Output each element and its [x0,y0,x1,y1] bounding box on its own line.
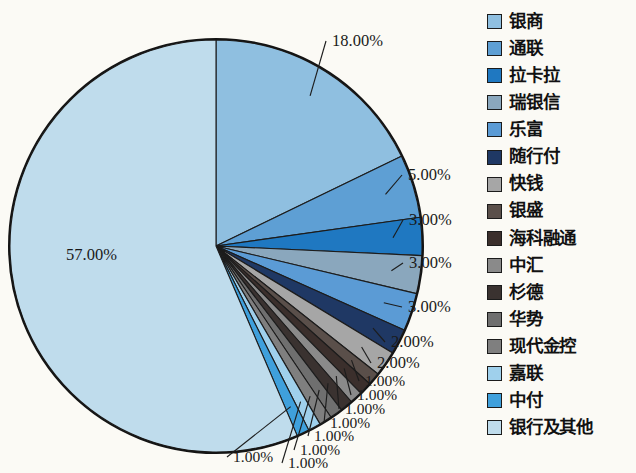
legend-item-label: 现代金控 [509,338,576,356]
legend-color-swatch [487,231,502,246]
slice-percent-label: 57.00% [66,245,117,264]
legend-color-swatch [487,150,502,165]
legend-item-label: 海科融通 [509,230,576,248]
legend-color-swatch [487,312,502,327]
legend-color-swatch [487,366,502,381]
legend-color-swatch [487,420,502,435]
slice-percent-label: 1.00% [288,454,328,471]
legend-color-swatch [487,68,502,83]
legend-item[interactable]: 杉德 [487,279,636,306]
slice-percent-label: 5.00% [408,165,451,184]
pie-chart-figure: 18.00%5.00%3.00%3.00%3.00%2.00%2.00%1.00… [0,0,636,473]
legend-item[interactable]: 海科融通 [487,225,636,252]
legend-color-swatch [487,393,502,408]
legend-item[interactable]: 通联 [487,35,636,62]
legend-item-label: 乐富 [509,121,543,139]
slice-percent-label: 3.00% [408,297,451,316]
legend-item[interactable]: 银盛 [487,198,636,225]
legend-item[interactable]: 中付 [487,387,636,414]
legend-color-swatch [487,258,502,273]
legend-item-label: 中汇 [509,257,543,275]
legend-item-label: 随行付 [509,148,559,166]
slice-percent-label: 3.00% [409,253,452,272]
legend-color-swatch [487,14,502,29]
legend-item-label: 瑞银信 [509,94,559,112]
legend-color-swatch [487,339,502,354]
legend-item[interactable]: 乐富 [487,116,636,143]
legend-color-swatch [487,41,502,56]
slice-percent-label: 18.00% [332,31,383,50]
slice-percent-label: 2.00% [377,353,420,372]
legend-item[interactable]: 随行付 [487,143,636,170]
legend-item[interactable]: 嘉联 [487,360,636,387]
legend: 银商通联拉卡拉瑞银信乐富随行付快钱银盛海科融通中汇杉德华势现代金控嘉联中付银行及… [487,8,636,442]
legend-item[interactable]: 华势 [487,306,636,333]
legend-item-label: 银盛 [509,202,543,220]
legend-item[interactable]: 中汇 [487,252,636,279]
legend-color-swatch [487,95,502,110]
legend-item-label: 拉卡拉 [509,67,559,85]
legend-item[interactable]: 快钱 [487,171,636,198]
legend-item-label: 杉德 [509,284,543,302]
legend-color-swatch [487,177,502,192]
slice-percent-label: 3.00% [409,210,452,229]
legend-item[interactable]: 银商 [487,8,636,35]
legend-item[interactable]: 拉卡拉 [487,62,636,89]
legend-item-label: 嘉联 [509,365,543,383]
slice-percent-label: 1.00% [233,448,273,465]
slice-percent-label: 2.00% [391,332,434,351]
legend-color-swatch [487,285,502,300]
legend-item[interactable]: 瑞银信 [487,89,636,116]
legend-item-label: 华势 [509,311,543,329]
legend-item-label: 银商 [509,13,543,31]
legend-item[interactable]: 银行及其他 [487,414,636,441]
legend-color-swatch [487,122,502,137]
legend-color-swatch [487,204,502,219]
legend-item-label: 中付 [509,392,543,410]
legend-item[interactable]: 现代金控 [487,333,636,360]
legend-item-label: 银行及其他 [509,419,593,437]
legend-item-label: 快钱 [509,175,543,193]
legend-item-label: 通联 [509,40,543,58]
